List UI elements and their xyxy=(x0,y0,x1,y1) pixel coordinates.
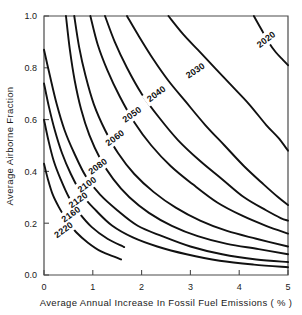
y-tick-label-0: 0.0 xyxy=(24,270,37,280)
x-tick-label-3: 3 xyxy=(188,282,193,292)
y-tick-label-5: 1.0 xyxy=(24,11,37,21)
x-axis-title: Average Annual Increase In Fossil Fuel E… xyxy=(40,297,293,308)
x-tick-label-0: 0 xyxy=(41,282,46,292)
y-tick-label-3: 0.6 xyxy=(24,115,37,125)
x-tick-label-1: 1 xyxy=(90,282,95,292)
y-axis-title: Average Airborne Fraction xyxy=(4,87,15,206)
x-tick-label-2: 2 xyxy=(139,282,144,292)
y-tick-label-1: 0.2 xyxy=(24,219,37,229)
figure-background xyxy=(0,0,302,315)
y-tick-label-4: 0.8 xyxy=(24,63,37,73)
x-tick-label-5: 5 xyxy=(285,282,290,292)
chart-page: 2020203020402050206020802100212021602220… xyxy=(0,0,302,315)
y-tick-label-2: 0.4 xyxy=(24,167,37,177)
contour-plot-figure: 2020203020402050206020802100212021602220… xyxy=(0,0,302,315)
x-tick-label-4: 4 xyxy=(237,282,242,292)
